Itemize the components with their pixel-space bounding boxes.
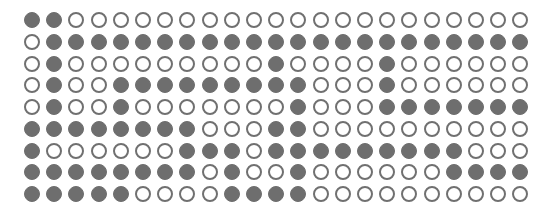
empty-circle-icon xyxy=(113,56,129,72)
empty-circle-icon xyxy=(446,121,462,137)
empty-circle-icon xyxy=(157,143,173,159)
filled-circle-icon xyxy=(290,143,306,159)
filled-circle-icon xyxy=(135,34,151,50)
filled-circle-icon xyxy=(446,99,462,115)
empty-circle-icon xyxy=(379,12,395,28)
filled-circle-icon xyxy=(446,34,462,50)
filled-circle-icon xyxy=(113,77,129,93)
filled-circle-icon xyxy=(46,77,62,93)
filled-circle-icon xyxy=(290,99,306,115)
filled-circle-icon xyxy=(268,34,284,50)
empty-circle-icon xyxy=(91,143,107,159)
filled-circle-icon xyxy=(401,34,417,50)
filled-circle-icon xyxy=(135,77,151,93)
filled-circle-icon xyxy=(157,164,173,180)
filled-circle-icon xyxy=(290,186,306,202)
empty-circle-icon xyxy=(113,12,129,28)
empty-circle-icon xyxy=(202,56,218,72)
empty-circle-icon xyxy=(490,77,506,93)
empty-circle-icon xyxy=(246,143,262,159)
filled-circle-icon xyxy=(446,143,462,159)
empty-circle-icon xyxy=(157,186,173,202)
empty-circle-icon xyxy=(313,186,329,202)
empty-circle-icon xyxy=(335,77,351,93)
empty-circle-icon xyxy=(313,56,329,72)
empty-circle-icon xyxy=(246,99,262,115)
filled-circle-icon xyxy=(113,121,129,137)
empty-circle-icon xyxy=(135,12,151,28)
filled-circle-icon xyxy=(224,186,240,202)
empty-circle-icon xyxy=(335,121,351,137)
empty-circle-icon xyxy=(24,77,40,93)
empty-circle-icon xyxy=(357,77,373,93)
empty-circle-icon xyxy=(424,12,440,28)
empty-circle-icon xyxy=(202,12,218,28)
empty-circle-icon xyxy=(268,99,284,115)
empty-circle-icon xyxy=(224,12,240,28)
filled-circle-icon xyxy=(246,77,262,93)
filled-circle-icon xyxy=(46,99,62,115)
filled-circle-icon xyxy=(379,34,395,50)
empty-circle-icon xyxy=(357,121,373,137)
empty-circle-icon xyxy=(135,143,151,159)
filled-circle-icon xyxy=(135,164,151,180)
empty-circle-icon xyxy=(490,186,506,202)
empty-circle-icon xyxy=(91,99,107,115)
filled-circle-icon xyxy=(268,121,284,137)
empty-circle-icon xyxy=(446,186,462,202)
filled-circle-icon xyxy=(335,143,351,159)
empty-circle-icon xyxy=(202,164,218,180)
filled-circle-icon xyxy=(490,164,506,180)
filled-circle-icon xyxy=(179,77,195,93)
empty-circle-icon xyxy=(468,186,484,202)
filled-circle-icon xyxy=(202,77,218,93)
filled-circle-icon xyxy=(46,12,62,28)
empty-circle-icon xyxy=(224,56,240,72)
filled-circle-icon xyxy=(468,99,484,115)
empty-circle-icon xyxy=(68,77,84,93)
empty-circle-icon xyxy=(313,12,329,28)
empty-circle-icon xyxy=(246,164,262,180)
empty-circle-icon xyxy=(468,121,484,137)
filled-circle-icon xyxy=(202,143,218,159)
empty-circle-icon xyxy=(490,56,506,72)
filled-circle-icon xyxy=(179,143,195,159)
filled-circle-icon xyxy=(268,186,284,202)
filled-circle-icon xyxy=(335,34,351,50)
filled-circle-icon xyxy=(46,186,62,202)
filled-circle-icon xyxy=(246,34,262,50)
filled-circle-icon xyxy=(91,164,107,180)
empty-circle-icon xyxy=(135,186,151,202)
filled-circle-icon xyxy=(468,34,484,50)
empty-circle-icon xyxy=(335,56,351,72)
empty-circle-icon xyxy=(468,56,484,72)
empty-circle-icon xyxy=(490,143,506,159)
filled-circle-icon xyxy=(157,77,173,93)
empty-circle-icon xyxy=(91,77,107,93)
filled-circle-icon xyxy=(424,143,440,159)
empty-circle-icon xyxy=(246,56,262,72)
filled-circle-icon xyxy=(113,99,129,115)
empty-circle-icon xyxy=(512,186,528,202)
empty-circle-icon xyxy=(512,143,528,159)
filled-circle-icon xyxy=(246,186,262,202)
filled-circle-icon xyxy=(113,34,129,50)
filled-circle-icon xyxy=(224,143,240,159)
filled-circle-icon xyxy=(268,56,284,72)
filled-circle-icon xyxy=(290,34,306,50)
filled-circle-icon xyxy=(68,121,84,137)
empty-circle-icon xyxy=(313,99,329,115)
empty-circle-icon xyxy=(135,56,151,72)
empty-circle-icon xyxy=(290,12,306,28)
empty-circle-icon xyxy=(290,56,306,72)
empty-circle-icon xyxy=(157,56,173,72)
filled-circle-icon xyxy=(24,186,40,202)
empty-circle-icon xyxy=(268,12,284,28)
empty-circle-icon xyxy=(401,164,417,180)
filled-circle-icon xyxy=(46,164,62,180)
filled-circle-icon xyxy=(68,164,84,180)
filled-circle-icon xyxy=(224,77,240,93)
empty-circle-icon xyxy=(313,77,329,93)
filled-circle-icon xyxy=(268,143,284,159)
empty-circle-icon xyxy=(313,121,329,137)
